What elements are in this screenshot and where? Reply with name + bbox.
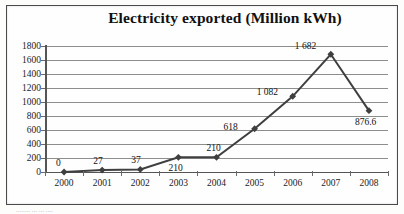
x-axis-tick-label: 2001 [82, 178, 122, 189]
x-axis-tick [236, 171, 237, 176]
x-axis-tick [197, 171, 198, 176]
y-axis-tick-label: 800 [0, 111, 41, 121]
x-axis-tick-label: 2002 [120, 178, 160, 189]
y-axis-tick-label: 1800 [0, 41, 41, 51]
x-axis-tick [45, 171, 46, 176]
y-axis-tick-label: 0 [0, 167, 41, 177]
data-point-label: 210 [207, 143, 221, 153]
y-axis-tick-label: 1200 [0, 83, 41, 93]
x-axis-labels: 200020012002200320042005200620072008 [45, 178, 388, 192]
y-axis-tick-label: 1600 [0, 55, 41, 65]
x-axis-tick [388, 171, 389, 176]
chart-screenshot: Electricity exported (Million kWh) 02004… [0, 0, 404, 214]
x-axis-tick-label: 2005 [235, 178, 275, 189]
x-axis-tick-label: 2003 [158, 178, 198, 189]
x-axis-tick [312, 171, 313, 176]
data-point-label: 1 082 [257, 87, 278, 97]
y-axis-labels: 020040060080010001200140016001800 [0, 39, 41, 179]
x-axis-tick [350, 171, 351, 176]
x-axis-tick [159, 171, 160, 176]
x-axis-tick-label: 2004 [197, 178, 237, 189]
y-axis-tick-label: 400 [0, 139, 41, 149]
scan-artifact-text: ........ ... ... .... [16, 206, 136, 212]
y-axis-tick-label: 600 [0, 125, 41, 135]
x-axis-tick-label: 2008 [349, 178, 389, 189]
data-point-label: 0 [56, 158, 61, 168]
x-axis-tick [83, 171, 84, 176]
data-point-marker [175, 154, 182, 161]
data-point-label: 876.6 [355, 117, 376, 127]
data-point-label: 210 [168, 163, 182, 173]
data-point-marker [137, 166, 144, 173]
chart-title: Electricity exported (Million kWh) [60, 9, 390, 27]
data-point-label: 27 [93, 156, 103, 166]
y-axis-tick-label: 1400 [0, 69, 41, 79]
x-axis-tick-label: 2006 [273, 178, 313, 189]
data-point-label: 1 682 [295, 41, 316, 51]
y-axis-tick-label: 200 [0, 153, 41, 163]
data-point-label: 37 [131, 155, 141, 165]
x-axis-tick-label: 2000 [44, 178, 84, 189]
x-axis-tick [121, 171, 122, 176]
x-axis-tick [274, 171, 275, 176]
data-point-label: 618 [224, 122, 238, 132]
x-axis-tick-label: 2007 [311, 178, 351, 189]
y-axis-tick-label: 1000 [0, 97, 41, 107]
